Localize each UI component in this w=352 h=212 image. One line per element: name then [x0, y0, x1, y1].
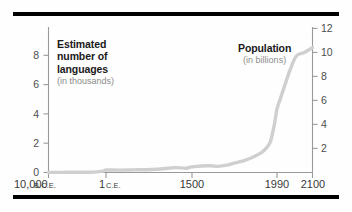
population-annotation: Population (in billions) — [238, 42, 291, 66]
languages-annotation-line2: number of — [57, 50, 114, 62]
right-axis-tick-8: 8 — [321, 70, 327, 82]
languages-annotation: Estimated number of languages (in thousa… — [57, 38, 114, 87]
left-axis-tick-8: 8 — [33, 49, 39, 61]
population-annotation-units: (in billions) — [238, 55, 291, 66]
x-tick-label-2100: 2100 — [301, 178, 325, 190]
x-axis-labels: 10,000 B.C.E. 1 C.E. 1500 1990 2100 — [14, 178, 325, 190]
languages-annotation-line3: languages — [57, 63, 114, 75]
left-axis-tick-6: 6 — [33, 78, 39, 90]
right-axis-tick-2: 2 — [321, 142, 327, 154]
chart-figure: 0 2 4 6 8 12 10 — [0, 0, 352, 212]
x-tick-label-1990: 1990 — [265, 178, 289, 190]
left-axis-tick-0: 0 — [33, 166, 39, 178]
x-tick-label-1ce-era: C.E. — [106, 181, 121, 190]
x-tick-label-1ce-value: 1 — [99, 178, 105, 190]
languages-annotation-units: (in thousands) — [57, 76, 114, 87]
right-axis-tick-10: 10 — [321, 46, 333, 58]
right-axis: 12 10 8 6 4 2 — [313, 22, 333, 173]
left-axis-tick-2: 2 — [33, 137, 39, 149]
right-axis-tick-12: 12 — [321, 22, 333, 34]
languages-annotation-line1: Estimated — [57, 38, 114, 50]
x-tick-label-1500: 1500 — [180, 178, 204, 190]
population-annotation-title: Population — [238, 42, 291, 54]
x-tick-label-10000-era: B.C.E. — [34, 181, 56, 190]
left-axis: 0 2 4 6 8 — [33, 27, 48, 178]
chart-plot: 0 2 4 6 8 12 10 — [0, 0, 352, 212]
right-axis-tick-6: 6 — [321, 94, 327, 106]
left-axis-tick-4: 4 — [33, 108, 39, 120]
right-axis-tick-4: 4 — [321, 118, 327, 130]
